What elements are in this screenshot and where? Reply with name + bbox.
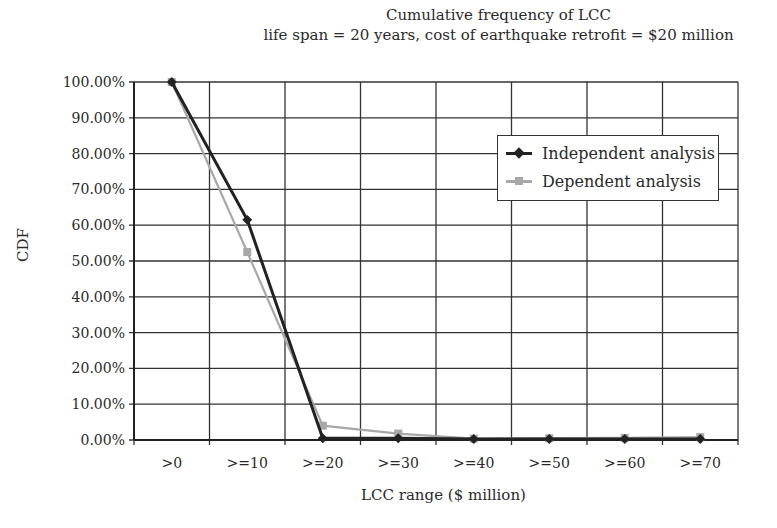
legend-line-square-icon xyxy=(506,180,532,183)
x-axis-label: LCC range ($ million) xyxy=(0,486,777,504)
y-tick-label: 70.00% xyxy=(72,181,125,197)
x-tick-label: >=70 xyxy=(680,455,721,471)
plot-area: 0.00%10.00%20.00%30.00%40.00%50.00%60.00… xyxy=(0,0,777,528)
y-tick-label: 50.00% xyxy=(72,253,125,269)
y-tick-label: 100.00% xyxy=(63,74,125,90)
y-axis-label: CDF xyxy=(14,228,32,262)
y-tick-label: 0.00% xyxy=(81,432,125,448)
x-tick-label: >0 xyxy=(161,455,182,471)
y-tick-label: 80.00% xyxy=(72,146,125,162)
legend-item-dependent: Dependent analysis xyxy=(506,172,701,191)
legend-line-diamond-icon xyxy=(506,152,532,155)
x-tick-label: >=50 xyxy=(529,455,570,471)
y-tick-label: 30.00% xyxy=(72,325,125,341)
y-tick-label: 90.00% xyxy=(72,110,125,126)
data-point-diamond-icon xyxy=(318,433,328,443)
legend-item-independent: Independent analysis xyxy=(506,144,715,163)
legend-label: Dependent analysis xyxy=(542,172,701,191)
data-point-square-icon xyxy=(243,248,251,256)
x-tick-label: >=10 xyxy=(227,455,268,471)
y-tick-label: 40.00% xyxy=(72,289,125,305)
y-tick-label: 10.00% xyxy=(72,396,125,412)
legend-label: Independent analysis xyxy=(542,144,715,163)
x-tick-label: >=40 xyxy=(453,455,494,471)
x-tick-label: >=20 xyxy=(302,455,343,471)
y-tick-label: 60.00% xyxy=(72,217,125,233)
legend: Independent analysis Dependent analysis xyxy=(497,135,719,201)
x-tick-label: >=30 xyxy=(378,455,419,471)
y-tick-label: 20.00% xyxy=(72,360,125,376)
x-tick-label: >=60 xyxy=(604,455,645,471)
